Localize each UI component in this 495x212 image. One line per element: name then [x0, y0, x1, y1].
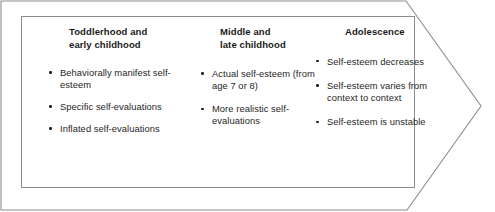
list-item-text: Inflated self-evaluations	[60, 123, 160, 134]
heading-line-1: Middle and	[220, 26, 271, 37]
bullet-list: Self-esteem decreases Self-esteem varies…	[315, 39, 435, 128]
list-item: Actual self-esteem (from age 7 or 8)	[200, 68, 332, 91]
bullet-dot-icon	[49, 105, 52, 108]
list-item-text: Self-esteem decreases	[327, 56, 424, 67]
column-heading: Adolescence	[315, 17, 435, 39]
column-toddlerhood: Toddlerhood and early childhood Behavior…	[48, 17, 198, 145]
list-item-text: More realistic self-evaluations	[212, 103, 289, 126]
column-middle-late-childhood: Middle and late childhood Actual self-es…	[200, 17, 332, 139]
list-item-text: Actual self-esteem (from age 7 or 8)	[212, 68, 315, 91]
list-item: Specific self-evaluations	[48, 101, 198, 113]
list-item: Self-esteem varies from context to conte…	[315, 80, 435, 103]
heading-line-1: Adolescence	[345, 26, 405, 37]
bullet-dot-icon	[201, 108, 204, 111]
list-item: Inflated self-evaluations	[48, 123, 198, 135]
list-item-text: Self-esteem varies from context to conte…	[327, 80, 427, 103]
heading-line-2: late childhood	[220, 39, 286, 50]
bullet-dot-icon	[201, 72, 204, 75]
list-item: Behaviorally manifest self-esteem	[48, 67, 198, 90]
content-box: Toddlerhood and early childhood Behavior…	[21, 16, 415, 188]
bullet-dot-icon	[316, 60, 319, 63]
bullet-list: Actual self-esteem (from age 7 or 8) Mor…	[200, 51, 332, 126]
bullet-dot-icon	[316, 121, 319, 124]
column-heading: Middle and late childhood	[200, 17, 332, 51]
list-item-text: Behaviorally manifest self-esteem	[60, 67, 171, 90]
list-item-text: Self-esteem is unstable	[327, 116, 426, 127]
list-item: Self-esteem decreases	[315, 56, 435, 68]
bullet-list: Behaviorally manifest self-esteem Specif…	[48, 51, 198, 134]
bullet-dot-icon	[316, 84, 319, 87]
heading-line-1: Toddlerhood and	[69, 26, 147, 37]
column-adolescence: Adolescence Self-esteem decreases Self-e…	[315, 17, 435, 141]
list-item: More realistic self-evaluations	[200, 103, 332, 126]
heading-line-2: early childhood	[69, 39, 141, 50]
column-heading: Toddlerhood and early childhood	[48, 17, 198, 51]
list-item: Self-esteem is unstable	[315, 116, 435, 128]
bullet-dot-icon	[49, 127, 52, 130]
list-item-text: Specific self-evaluations	[60, 101, 162, 112]
bullet-dot-icon	[49, 71, 52, 74]
